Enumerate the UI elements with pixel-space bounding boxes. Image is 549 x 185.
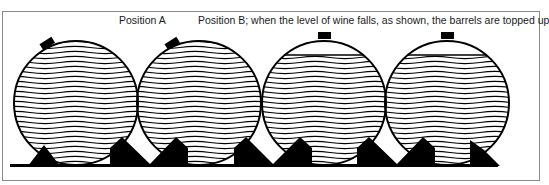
barrel-4 <box>381 32 521 170</box>
bung-icon <box>441 32 454 39</box>
bung-icon <box>318 32 331 39</box>
label-position-a: Position A <box>119 15 166 26</box>
label-position-b: Position B; when the level of wine falls… <box>198 15 549 26</box>
